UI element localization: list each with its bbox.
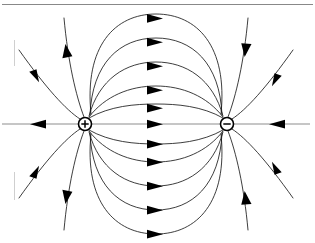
- arrowhead-arc-above-3: [147, 62, 163, 71]
- arrowhead-arc-above-4: [147, 38, 163, 47]
- field-line-outer-right-upper-a: [228, 18, 248, 117]
- arrowhead-arc-below-3: [147, 182, 163, 191]
- arrowhead-arc-below-2: [147, 158, 163, 167]
- field-line-arc-above-1: [89, 104, 223, 118]
- arrowhead-arc-above-2: [147, 86, 163, 95]
- arrowhead-arc-below-4: [147, 206, 163, 215]
- arrowhead-outer-right-upper-b: [271, 73, 282, 87]
- arrowhead-arc-above-5: [147, 14, 163, 23]
- field-line-outer-right-lower-b: [228, 131, 248, 230]
- field-line-outer-right-lower-a: [232, 129, 293, 198]
- arrowhead-outer-right-lower-a: [271, 162, 282, 176]
- field-line-arc-below-2: [89, 131, 223, 162]
- field-line-outer-left-upper-b: [19, 50, 80, 119]
- field-line-arc-above-4: [90, 38, 222, 115]
- arrowhead-outer-left-lower-b: [60, 190, 72, 205]
- arrowhead-outer-right-axis: [269, 120, 285, 129]
- arrowhead-axis-center: [147, 120, 163, 129]
- dipole-field-figure: Electric field lines of an electric dipo…: [0, 0, 315, 243]
- arrowhead-outer-right-upper-a: [239, 43, 251, 58]
- field-line-arc-below-3: [89, 132, 223, 186]
- field-line-outer-right-upper-b: [232, 50, 293, 119]
- arrowhead-outer-left-upper-a: [60, 43, 72, 58]
- dipole-field-diagram: [0, 0, 315, 243]
- field-line-arc-below-1: [89, 130, 223, 144]
- arrowhead-outer-left-axis: [30, 120, 46, 129]
- field-lines-outer-right: [228, 18, 310, 230]
- field-line-outer-left-upper-a: [64, 18, 84, 117]
- field-line-arc-above-5: [90, 14, 222, 114]
- arrowhead-arc-below-1: [147, 140, 163, 149]
- arrowhead-outer-right-lower-b: [239, 190, 251, 205]
- field-line-outer-left-lower-a: [19, 129, 80, 198]
- arrowhead-arc-below-5: [147, 230, 163, 239]
- field-line-outer-left-lower-b: [64, 131, 84, 230]
- arrowheads-interior: [147, 14, 163, 239]
- field-line-arc-below-5: [90, 134, 222, 234]
- negative-charge: [221, 118, 234, 131]
- arrowhead-arc-above-1: [147, 104, 163, 113]
- positive-charge: [79, 118, 92, 131]
